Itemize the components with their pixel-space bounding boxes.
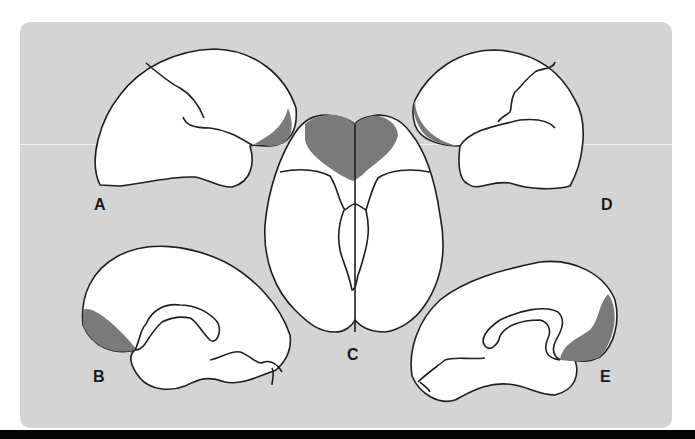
view-label-a: A [94, 196, 106, 214]
brain-view-d [413, 50, 583, 189]
view-label-c: C [347, 346, 359, 364]
brain-view-c [265, 115, 443, 332]
brain-view-a [95, 49, 296, 187]
brain-view-b [83, 246, 291, 389]
brain-view-e [411, 261, 617, 401]
view-label-d: D [601, 196, 613, 214]
view-label-b: B [93, 368, 105, 386]
view-label-e: E [600, 368, 611, 386]
bottom-bar [0, 430, 695, 439]
